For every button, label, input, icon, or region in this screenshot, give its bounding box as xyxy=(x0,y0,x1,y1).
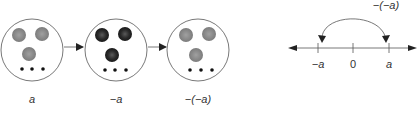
tick-label-zero: 0 xyxy=(350,58,356,70)
ellipsis-dot xyxy=(210,68,214,72)
counter xyxy=(118,27,132,41)
counter xyxy=(189,48,203,62)
negation-diagram: a −a −(−a) −a 0 a −(−a) xyxy=(0,0,420,114)
ellipsis-dot xyxy=(41,67,45,71)
arc-arrowhead-left-icon xyxy=(318,35,326,43)
arrow-left-icon xyxy=(288,45,297,51)
arrow-right-icon xyxy=(408,45,417,51)
ellipsis-dot xyxy=(20,67,24,71)
set-label-a: a xyxy=(29,93,35,105)
arc-label: −(−a) xyxy=(373,0,400,11)
tick-label-a: a xyxy=(386,58,392,70)
ellipsis-dot xyxy=(30,67,34,71)
ellipsis-dot xyxy=(103,68,107,72)
counter xyxy=(105,48,119,62)
counter xyxy=(12,28,26,42)
set-a xyxy=(1,19,63,81)
set-double-negative-a xyxy=(167,19,229,81)
set-negative-a xyxy=(85,19,147,81)
ellipsis-dot xyxy=(199,68,203,72)
counter xyxy=(22,47,36,61)
arc-arrowhead-right-icon xyxy=(382,35,390,43)
reflection-arc xyxy=(322,19,386,41)
number-line: −a 0 a −(−a) xyxy=(288,0,417,70)
ellipsis-dot xyxy=(188,68,192,72)
counter xyxy=(202,27,216,41)
counter xyxy=(95,28,109,42)
set-label-negative-a: −a xyxy=(110,93,123,105)
counter xyxy=(35,27,49,41)
ellipsis-dot xyxy=(113,68,117,72)
counter xyxy=(179,28,193,42)
ellipsis-dot xyxy=(124,68,128,72)
tick-label-negative-a: −a xyxy=(312,58,325,70)
set-label-double-negative-a: −(−a) xyxy=(185,93,212,105)
